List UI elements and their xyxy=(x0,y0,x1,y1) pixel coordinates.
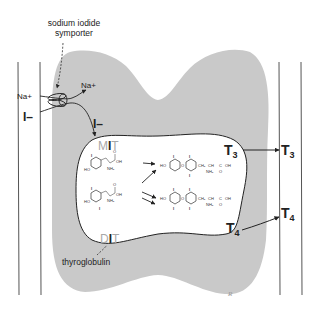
svg-text:NH₂: NH₂ xyxy=(107,166,115,171)
symporter-label-line2: symporter xyxy=(55,28,93,38)
svg-text:I: I xyxy=(173,187,174,192)
svg-text:I: I xyxy=(173,206,174,211)
right-capillary xyxy=(279,62,302,295)
thyroid-follicle-diagram: sodium iodide symporter Na+ Na+ I– I– MI… xyxy=(0,0,315,315)
svg-text:I: I xyxy=(91,186,92,191)
thyroglobulin-label: thyroglobulin xyxy=(62,257,110,267)
svg-text:NH₂: NH₂ xyxy=(107,198,115,203)
svg-text:O: O xyxy=(181,196,184,201)
svg-text:O: O xyxy=(219,202,222,207)
svg-text:CH₂: CH₂ xyxy=(198,163,206,168)
svg-text:C: C xyxy=(219,196,222,201)
svg-text:OH: OH xyxy=(116,159,122,164)
svg-text:I: I xyxy=(99,206,100,211)
svg-text:I: I xyxy=(173,154,174,159)
svg-text:CH: CH xyxy=(208,196,214,201)
iodide-inside-label: I– xyxy=(93,117,103,131)
artist-signature: R xyxy=(227,290,233,298)
sodium-inside-label: Na+ xyxy=(81,81,96,90)
svg-text:OH: OH xyxy=(225,163,231,168)
svg-text:I: I xyxy=(189,187,190,192)
svg-text:NH₂: NH₂ xyxy=(206,169,214,174)
mit-label: MIT xyxy=(98,139,119,153)
svg-text:HO: HO xyxy=(160,163,166,168)
svg-text:O: O xyxy=(113,149,116,154)
svg-text:O: O xyxy=(113,182,116,187)
svg-text:OH: OH xyxy=(116,192,122,197)
svg-text:CH₂: CH₂ xyxy=(198,196,206,201)
dit-label: DIT xyxy=(100,232,120,246)
svg-text:HO: HO xyxy=(84,199,90,204)
svg-text:NH₂: NH₂ xyxy=(206,202,214,207)
t3-outside-label: T3 xyxy=(281,142,295,160)
sodium-outside-label: Na+ xyxy=(17,92,32,101)
svg-text:CH: CH xyxy=(208,163,214,168)
symporter-label-line1: sodium iodide xyxy=(48,18,101,28)
svg-text:I: I xyxy=(189,154,190,159)
svg-text:I: I xyxy=(189,206,190,211)
svg-text:HO: HO xyxy=(84,167,90,172)
svg-text:C: C xyxy=(219,163,222,168)
svg-text:OH: OH xyxy=(225,196,231,201)
svg-text:O: O xyxy=(181,163,184,168)
svg-text:HO: HO xyxy=(160,196,166,201)
iodide-outside-label: I– xyxy=(23,110,33,124)
svg-text:O: O xyxy=(219,169,222,174)
svg-text:I: I xyxy=(91,153,92,158)
svg-text:I: I xyxy=(189,173,190,178)
t4-outside-label: T4 xyxy=(281,205,295,223)
